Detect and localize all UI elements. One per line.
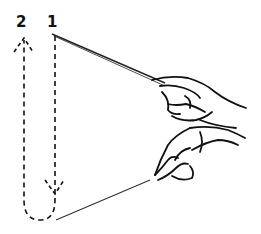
hand-upper-icon — [152, 77, 246, 128]
beat-path — [24, 36, 55, 220]
diagram-drawing — [0, 0, 261, 234]
hand-lower-icon — [155, 127, 245, 180]
baton-upper — [52, 34, 165, 86]
conducting-diagram: 2 1 — [0, 0, 261, 234]
baton-lower — [56, 180, 150, 220]
